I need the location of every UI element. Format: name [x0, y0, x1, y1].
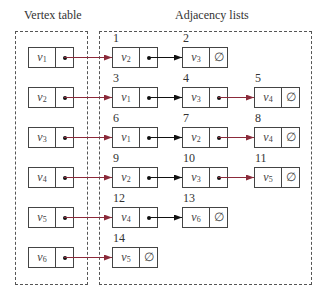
null-pointer-icon: ∅ [210, 208, 227, 227]
dot-icon [217, 136, 221, 140]
node-index-label: 9 [113, 151, 119, 166]
node-index-label: 1 [113, 31, 119, 46]
vertex-subscript: 5 [43, 215, 47, 224]
vertex-label: v6 [29, 248, 56, 267]
vertex-table-entry: v2 [28, 87, 74, 108]
pointer-dot-icon [56, 48, 73, 67]
null-pointer-icon: ∅ [282, 168, 299, 187]
adjacency-node: v4∅ [254, 127, 300, 148]
vertex-subscript: 3 [197, 95, 201, 104]
dot-icon [63, 136, 67, 140]
vertex-table-entry: v4 [28, 167, 74, 188]
vertex-label: v6 [183, 208, 210, 227]
adjacency-lists-heading: Adjacency lists [175, 8, 249, 23]
vertex-subscript: 3 [197, 55, 201, 64]
vertex-subscript: 2 [127, 175, 131, 184]
vertex-subscript: 2 [127, 55, 131, 64]
pointer-dot-icon [56, 248, 73, 267]
dot-icon [63, 96, 67, 100]
dot-icon [147, 216, 151, 220]
dot-icon [63, 216, 67, 220]
vertex-label: v3 [183, 88, 210, 107]
node-index-label: 2 [183, 31, 189, 46]
pointer-dot-icon [210, 88, 227, 107]
null-pointer-icon: ∅ [140, 248, 157, 267]
node-index-label: 11 [255, 151, 267, 166]
vertex-label: v1 [113, 88, 140, 107]
pointer-dot-icon [56, 168, 73, 187]
dot-icon [147, 176, 151, 180]
null-pointer-icon: ∅ [210, 48, 227, 67]
null-pointer-icon: ∅ [282, 128, 299, 147]
vertex-subscript: 1 [127, 135, 131, 144]
vertex-label: v2 [113, 48, 140, 67]
adjacency-node: v5∅ [254, 167, 300, 188]
vertex-label: v3 [29, 128, 56, 147]
vertex-label: v1 [29, 48, 56, 67]
adjacency-node: v2 [112, 47, 158, 68]
pointer-dot-icon [56, 88, 73, 107]
pointer-dot-icon [140, 208, 157, 227]
vertex-label: v4 [29, 168, 56, 187]
vertex-subscript: 4 [269, 135, 273, 144]
vertex-label: v5 [255, 168, 282, 187]
vertex-subscript: 2 [43, 95, 47, 104]
adjacency-node: v3 [182, 87, 228, 108]
vertex-label: v3 [183, 168, 210, 187]
vertex-subscript: 5 [127, 255, 131, 264]
node-index-label: 5 [255, 71, 261, 86]
vertex-label: v4 [255, 128, 282, 147]
vertex-table-entry: v1 [28, 47, 74, 68]
adjacency-node: v4∅ [254, 87, 300, 108]
vertex-subscript: 1 [127, 95, 131, 104]
node-index-label: 4 [183, 71, 189, 86]
dot-icon [217, 96, 221, 100]
null-pointer-icon: ∅ [282, 88, 299, 107]
node-index-label: 14 [113, 231, 125, 246]
node-index-label: 6 [113, 111, 119, 126]
node-index-label: 12 [113, 191, 125, 206]
vertex-subscript: 5 [269, 175, 273, 184]
vertex-label: v3 [183, 48, 210, 67]
node-index-label: 13 [183, 191, 195, 206]
vertex-subscript: 4 [127, 215, 131, 224]
pointer-dot-icon [140, 48, 157, 67]
node-index-label: 7 [183, 111, 189, 126]
dot-icon [63, 256, 67, 260]
vertex-table-entry: v5 [28, 207, 74, 228]
vertex-subscript: 1 [43, 55, 47, 64]
pointer-dot-icon [210, 168, 227, 187]
vertex-label: v4 [255, 88, 282, 107]
dot-icon [147, 136, 151, 140]
vertex-label: v2 [183, 128, 210, 147]
pointer-dot-icon [210, 128, 227, 147]
pointer-dot-icon [140, 128, 157, 147]
vertex-table-heading: Vertex table [24, 8, 82, 23]
vertex-label: v5 [29, 208, 56, 227]
dot-icon [217, 176, 221, 180]
adjacency-node: v3∅ [182, 47, 228, 68]
vertex-label: v1 [113, 128, 140, 147]
pointer-dot-icon [56, 128, 73, 147]
adjacency-node: v4 [112, 207, 158, 228]
vertex-subscript: 4 [43, 175, 47, 184]
vertex-subscript: 2 [197, 135, 201, 144]
node-index-label: 3 [113, 71, 119, 86]
adjacency-node: v3 [182, 167, 228, 188]
vertex-label: v2 [29, 88, 56, 107]
vertex-label: v2 [113, 168, 140, 187]
vertex-table-entry: v6 [28, 247, 74, 268]
dot-icon [147, 56, 151, 60]
vertex-label: v4 [113, 208, 140, 227]
node-index-label: 10 [183, 151, 195, 166]
vertex-table-entry: v3 [28, 127, 74, 148]
adjacency-node: v6∅ [182, 207, 228, 228]
vertex-subscript: 4 [269, 95, 273, 104]
dot-icon [147, 96, 151, 100]
vertex-subscript: 3 [197, 175, 201, 184]
dot-icon [63, 176, 67, 180]
adjacency-node: v2 [112, 167, 158, 188]
vertex-subscript: 3 [43, 135, 47, 144]
adjacency-node: v2 [182, 127, 228, 148]
pointer-dot-icon [56, 208, 73, 227]
